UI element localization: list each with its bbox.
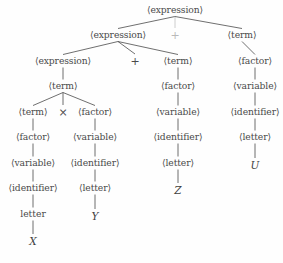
tree-node-n25: ⟨letter⟩ xyxy=(79,183,111,192)
tree-node-n11: ⟨term⟩ xyxy=(19,107,48,116)
tree-node-n7: ⟨factor⟩ xyxy=(238,56,272,65)
tree-node-n6: ⟨term⟩ xyxy=(164,56,193,65)
tree-node-n22: ⟨letter⟩ xyxy=(162,158,194,167)
tree-edge-n0-n3 xyxy=(175,17,242,29)
tree-node-n28: Y xyxy=(92,211,99,222)
tree-node-n19: ⟨letter⟩ xyxy=(239,132,271,141)
parse-tree-figure: ⟨expression⟩⟨expression⟩+⟨term⟩⟨expressi… xyxy=(0,0,283,263)
tree-node-n21: ⟨identifier⟩ xyxy=(71,158,120,167)
tree-node-n16: ⟨factor⟩ xyxy=(16,132,50,141)
tree-edge-n1-n6 xyxy=(118,42,178,55)
tree-node-n23: U xyxy=(251,160,260,171)
tree-node-n2: + xyxy=(170,30,179,41)
tree-node-n9: ⟨factor⟩ xyxy=(161,81,195,90)
tree-node-n24: ⟨identifier⟩ xyxy=(9,183,58,192)
tree-node-n29: X xyxy=(29,236,36,247)
tree-node-n18: ⟨identifier⟩ xyxy=(154,132,203,141)
tree-node-n14: ⟨variable⟩ xyxy=(156,107,200,116)
tree-node-n26: Z xyxy=(174,185,181,196)
tree-node-n1: ⟨expression⟩ xyxy=(90,30,146,39)
tree-edge-n8-n11 xyxy=(33,93,63,106)
tree-node-n3: ⟨term⟩ xyxy=(228,30,257,39)
tree-node-n0: ⟨expression⟩ xyxy=(147,5,203,14)
tree-node-n13: ⟨factor⟩ xyxy=(78,107,112,116)
tree-node-n5: + xyxy=(130,56,139,67)
tree-node-n27: letter xyxy=(20,209,46,218)
tree-node-n12: × xyxy=(58,107,67,118)
tree-node-n15: ⟨identifier⟩ xyxy=(231,107,280,116)
tree-edge-n1-n4 xyxy=(63,42,118,55)
tree-node-n4: ⟨expression⟩ xyxy=(35,56,91,65)
tree-node-n20: ⟨variable⟩ xyxy=(11,158,55,167)
tree-node-n8: ⟨term⟩ xyxy=(49,81,78,90)
tree-edge-n0-n1 xyxy=(118,17,175,29)
tree-node-n10: ⟨variable⟩ xyxy=(233,81,277,90)
tree-edge-n8-n13 xyxy=(63,93,95,106)
tree-edge-n1-n5 xyxy=(118,42,135,55)
tree-edge-n3-n7 xyxy=(242,42,255,55)
tree-node-n17: ⟨variable⟩ xyxy=(73,132,117,141)
